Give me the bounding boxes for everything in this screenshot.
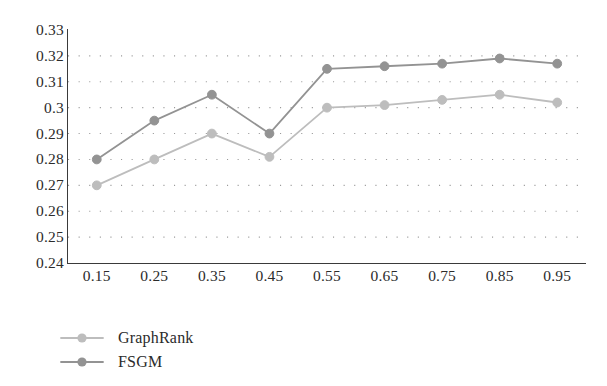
legend-item-label: GraphRank	[118, 330, 194, 346]
y-axis-tick-label: 0.29	[2, 126, 64, 142]
y-axis-tick-label: 0.31	[2, 74, 64, 90]
x-axis-tick-label: 0.15	[83, 268, 111, 284]
x-axis-tick-label: 0.25	[140, 268, 168, 284]
x-axis-tick-label: 0.35	[198, 268, 226, 284]
data-point-marker	[323, 64, 332, 73]
x-axis-tick-label: 0.75	[428, 268, 456, 284]
y-axis-tick-label: 0.26	[2, 203, 64, 219]
data-point-marker	[380, 62, 389, 71]
line-chart-figure: 0.330.320.310.30.290.280.270.260.250.24 …	[0, 0, 607, 386]
y-axis-tick-label: 0.27	[2, 178, 64, 194]
y-axis-tick-label: 0.28	[2, 152, 64, 168]
data-point-marker	[438, 59, 447, 68]
plot-area	[68, 30, 586, 263]
data-point-marker	[495, 90, 504, 99]
y-axis-tick-label: 0.32	[2, 48, 64, 64]
data-point-marker	[265, 152, 274, 161]
data-point-marker	[438, 96, 447, 105]
x-axis-tick-label: 0.45	[255, 268, 283, 284]
data-point-marker	[207, 129, 216, 138]
y-axis-tick-label: 0.33	[2, 22, 64, 38]
data-point-marker	[553, 59, 562, 68]
x-axis-tick-label: 0.95	[543, 268, 571, 284]
x-axis-tick-label: 0.55	[313, 268, 341, 284]
legend-marker-icon	[60, 331, 104, 345]
data-point-marker	[323, 103, 332, 112]
series-graphrank	[92, 90, 561, 189]
x-axis-line	[67, 263, 586, 264]
data-point-marker	[495, 54, 504, 63]
y-axis-tick-label: 0.24	[2, 255, 64, 271]
y-axis-tick-labels: 0.330.320.310.30.290.280.270.260.250.24	[0, 0, 64, 386]
data-point-marker	[150, 155, 159, 164]
data-point-marker	[207, 90, 216, 99]
legend-marker-icon	[60, 355, 104, 369]
data-point-marker	[380, 101, 389, 110]
x-axis-tick-label: 0.85	[486, 268, 514, 284]
data-point-marker	[265, 129, 274, 138]
legend-item-fsgm[interactable]: FSGM	[60, 350, 194, 374]
legend-item-label: FSGM	[118, 354, 162, 370]
x-axis-tick-label: 0.65	[371, 268, 399, 284]
data-point-marker	[92, 155, 101, 164]
legend-item-graphrank[interactable]: GraphRank	[60, 326, 194, 350]
data-point-marker	[553, 98, 562, 107]
x-axis-tick-labels: 0.150.250.350.450.550.650.750.850.95	[68, 268, 586, 290]
y-axis-tick-label: 0.25	[2, 229, 64, 245]
chart-legend: GraphRankFSGM	[60, 326, 194, 374]
data-point-marker	[92, 181, 101, 190]
data-point-marker	[150, 116, 159, 125]
data-series-layer	[68, 30, 586, 263]
y-axis-tick-label: 0.3	[2, 100, 64, 116]
